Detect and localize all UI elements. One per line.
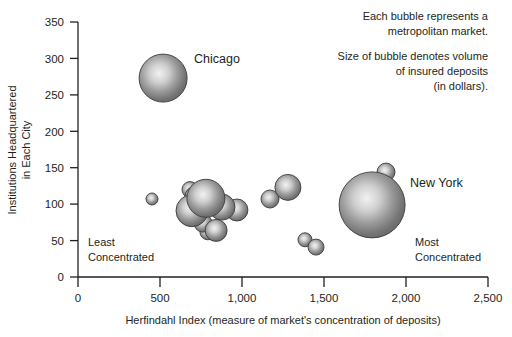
most-concentrated-line1: Most bbox=[415, 236, 439, 248]
y-axis-title-line2: in Each City bbox=[20, 120, 32, 179]
y-tick-label: 200 bbox=[45, 126, 64, 138]
x-tick-label: 2,500 bbox=[474, 292, 503, 304]
x-tick-label: 500 bbox=[150, 292, 169, 304]
note-line: metropolitan market. bbox=[388, 25, 488, 37]
note-line: Each bubble represents a bbox=[363, 10, 489, 22]
y-tick-label: 150 bbox=[45, 162, 64, 174]
bubble bbox=[205, 219, 227, 241]
y-tick-label: 0 bbox=[58, 271, 64, 283]
x-tick-label: 1,000 bbox=[228, 292, 257, 304]
bubble bbox=[275, 174, 301, 200]
y-axis-title-line1: Institutions Headquartered bbox=[6, 85, 18, 214]
least-concentrated-line2: Concentrated bbox=[88, 251, 154, 263]
bubble-circle bbox=[146, 193, 158, 205]
bubble-circle bbox=[205, 219, 227, 241]
x-tick-label: 0 bbox=[75, 292, 81, 304]
bubble-label-chicago: Chicago bbox=[194, 52, 240, 66]
bubble-circle bbox=[308, 239, 324, 255]
note-line: (in dollars). bbox=[434, 80, 488, 92]
bubble-circle bbox=[139, 54, 187, 102]
bubble-chart: 0 50 100 150 200 250 300 350 0 500 1,000… bbox=[0, 0, 512, 337]
most-concentrated-line2: Concentrated bbox=[415, 251, 481, 263]
y-tick-label: 100 bbox=[45, 198, 64, 210]
bubble bbox=[308, 239, 324, 255]
x-tick-label: 1,500 bbox=[310, 292, 339, 304]
least-concentrated-line1: Least bbox=[88, 236, 115, 248]
bubble bbox=[146, 193, 158, 205]
y-tick-label: 50 bbox=[51, 235, 64, 247]
note-line: Size of bubble denotes volume bbox=[338, 50, 488, 62]
bubble-circle bbox=[339, 172, 405, 238]
bubble-circle bbox=[275, 174, 301, 200]
bubble-circle bbox=[187, 179, 225, 217]
y-tick-label: 350 bbox=[45, 16, 64, 28]
bubble-chicago bbox=[139, 54, 187, 102]
x-tick-label: 2,000 bbox=[392, 292, 421, 304]
bubble bbox=[187, 179, 225, 217]
y-tick-label: 250 bbox=[45, 89, 64, 101]
note-line: of insured deposits bbox=[396, 65, 489, 77]
bubble-new-york bbox=[339, 172, 405, 238]
chart-svg: 0 50 100 150 200 250 300 350 0 500 1,000… bbox=[0, 0, 512, 337]
x-axis-title: Herfindahl Index (measure of market's co… bbox=[125, 314, 440, 326]
bubble-label-new-york: New York bbox=[410, 176, 464, 190]
y-tick-label: 300 bbox=[45, 53, 64, 65]
